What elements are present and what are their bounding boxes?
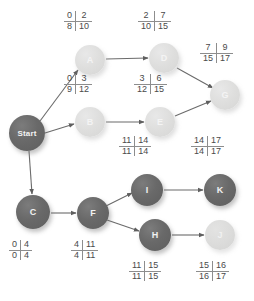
schedule-cell-late_finish: 12 [76,84,93,94]
node-a[interactable]: A [75,45,105,75]
schedule-cell-early_start: 15 [196,261,213,271]
node-f[interactable]: F [77,197,109,229]
schedule-box-g: 791517 [200,43,233,63]
node-h[interactable]: H [139,219,171,251]
node-label: B [87,117,94,127]
schedule-cell-late_finish: 4 [21,250,33,260]
node-label: A [87,55,94,65]
schedule-cell-early_start: 11 [119,136,135,146]
node-j[interactable]: J [205,220,235,250]
network-diagram: StartABCDEFGHIJK 02810271015791517039123… [0,0,254,301]
schedule-box-j: 15161617 [196,261,229,281]
edge-e-g [175,101,211,116]
schedule-cell-early_finish: 14 [135,136,152,146]
node-label: G [221,90,228,100]
schedule-cell-late_finish: 15 [145,271,162,281]
schedule-cell-late_start: 16 [196,271,213,281]
schedule-cell-late_start: 11 [119,146,135,156]
schedule-cell-early_finish: 11 [83,240,99,250]
schedule-box-f: 411411 [71,240,98,260]
schedule-cell-early_finish: 16 [213,261,230,271]
schedule-cell-late_start: 11 [129,271,145,281]
schedule-cell-early_start: 7 [200,43,217,53]
edge-f-i [106,193,132,206]
node-i[interactable]: I [131,174,163,206]
schedule-cell-early_start: 0 [9,240,21,250]
schedule-box-h: 11151115 [129,261,161,281]
node-label: H [152,230,159,240]
schedule-cell-late_finish: 14 [135,146,152,156]
node-label: C [30,207,37,217]
schedule-cell-late_start: 15 [200,53,217,63]
schedule-box-k: 14171417 [191,136,224,156]
schedule-cell-late_start: 0 [9,250,21,260]
node-label: D [161,53,168,63]
schedule-cell-late_finish: 15 [151,84,168,94]
schedule-cell-late_start: 10 [138,21,155,31]
schedule-cell-late_finish: 15 [155,21,172,31]
schedule-cell-early_start: 0 [64,74,76,84]
schedule-box-b: 03912 [64,74,92,94]
node-label: J [217,230,222,240]
schedule-cell-early_finish: 4 [21,240,33,250]
edge-start-b [45,124,74,133]
node-label: K [217,185,224,195]
schedule-cell-early_start: 11 [129,261,145,271]
node-b[interactable]: B [75,107,105,137]
schedule-cell-late_start: 9 [64,84,76,94]
edge-a-d [106,58,148,59]
schedule-cell-late_finish: 17 [213,271,230,281]
schedule-cell-late_start: 14 [191,146,208,156]
schedule-cell-early_finish: 7 [155,11,172,21]
edge-f-h [107,220,139,231]
schedule-cell-late_finish: 17 [217,53,234,63]
schedule-cell-early_start: 2 [138,11,155,21]
node-start[interactable]: Start [9,115,45,151]
node-label: Start [17,129,36,138]
schedule-box-e: 361215 [134,74,167,94]
node-k[interactable]: K [204,174,236,206]
schedule-box-d: 271015 [138,11,171,31]
node-label: I [146,185,149,195]
schedule-cell-early_finish: 3 [76,74,93,84]
node-c[interactable]: C [16,195,50,229]
schedule-cell-early_finish: 9 [217,43,234,53]
node-e[interactable]: E [145,107,175,137]
schedule-cell-early_finish: 2 [76,11,93,21]
schedule-cell-early_finish: 6 [151,74,168,84]
node-d[interactable]: D [149,43,179,73]
edge-start-c [29,151,32,194]
schedule-box-a: 02810 [64,11,92,31]
schedule-cell-early_finish: 15 [145,261,162,271]
schedule-cell-late_start: 4 [71,250,83,260]
schedule-box-c: 0404 [9,240,32,260]
schedule-box-i: 11141114 [119,136,151,156]
schedule-cell-early_start: 0 [64,11,76,21]
schedule-cell-late_finish: 10 [76,21,93,31]
schedule-cell-early_start: 4 [71,240,83,250]
node-label: F [90,208,96,218]
schedule-cell-late_finish: 17 [208,146,225,156]
edge-d-g [177,68,213,88]
schedule-cell-early_start: 14 [191,136,208,146]
node-g[interactable]: G [210,80,240,110]
schedule-cell-late_start: 8 [64,21,76,31]
schedule-cell-late_start: 12 [134,84,151,94]
schedule-cell-early_start: 3 [134,74,151,84]
schedule-cell-early_finish: 17 [208,136,225,146]
node-label: E [157,117,163,127]
schedule-cell-late_finish: 11 [83,250,99,260]
